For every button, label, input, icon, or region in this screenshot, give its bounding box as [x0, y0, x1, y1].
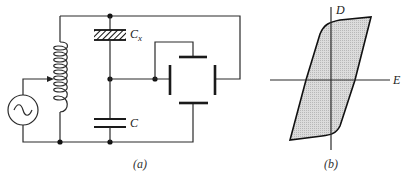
junction-bottom-left: [57, 139, 62, 144]
source-bottom-wire: [23, 103, 193, 142]
ac-source-icon: [8, 95, 38, 125]
top-wire: [60, 16, 240, 79]
e-axis-label: E: [392, 73, 401, 87]
top-plate-wire: [155, 42, 193, 79]
c-label: C: [130, 116, 139, 130]
cx-label: Cx: [130, 27, 142, 43]
deflection-plates-icon: [170, 57, 215, 103]
caption-a: (a): [133, 157, 147, 171]
figure: Cx C (a) D E (b): [0, 0, 404, 183]
tap-wire: [23, 79, 50, 95]
d-axis-label: D: [335, 3, 345, 17]
ferroelectric-capacitor-icon: [94, 30, 126, 40]
circuit-diagram: Cx C (a): [8, 13, 240, 171]
tap-arrow-icon: [47, 76, 54, 82]
inductor-icon: [54, 42, 68, 112]
capacitor-icon: [94, 119, 126, 127]
hysteresis-plot: D E (b): [270, 3, 401, 171]
caption-b: (b): [324, 157, 338, 171]
